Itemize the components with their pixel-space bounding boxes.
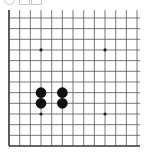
grid-lines: [9, 10, 140, 146]
star-point: [103, 112, 106, 115]
star-point: [39, 48, 42, 51]
go-board[interactable]: [0, 0, 147, 157]
black-stone[interactable]: [57, 87, 68, 98]
black-stone[interactable]: [36, 98, 47, 109]
black-stone[interactable]: [57, 98, 68, 109]
star-point: [103, 48, 106, 51]
star-point: [39, 112, 42, 115]
black-stone[interactable]: [36, 87, 47, 98]
